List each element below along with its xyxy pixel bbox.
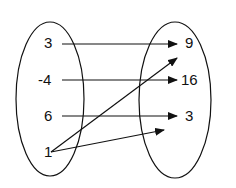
range-element-2: 3: [185, 107, 193, 124]
range-element-0: 9: [185, 34, 193, 51]
arrow-1-to-9: [51, 58, 177, 152]
range-element-1: 16: [181, 71, 198, 88]
mapping-diagram: 3 -4 6 1 9 16 3: [0, 0, 236, 188]
range-set-ellipse: [139, 22, 211, 178]
domain-element-0: 3: [44, 34, 52, 51]
domain-element-2: 6: [44, 107, 52, 124]
domain-element-1: -4: [38, 71, 51, 88]
